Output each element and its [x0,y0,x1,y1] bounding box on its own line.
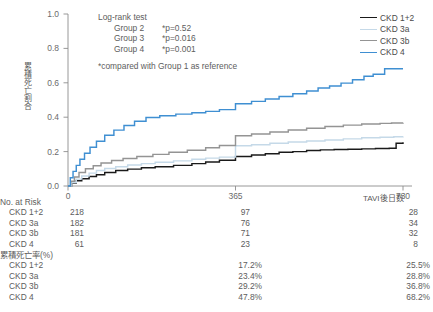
risk-value-day0: 61 [62,239,84,249]
legend-swatch [360,29,377,30]
logrank-row: Group 2 *p=0.52 [98,23,237,34]
table-row: CKD 4 47.8% 68.2% [0,292,433,302]
legend-swatch [360,40,377,41]
logrank-footnote: *compared with Group 1 as reference [98,61,237,72]
risk-row-label: CKD 1+2 [9,207,43,217]
risk-value-day0: 182 [62,218,84,228]
legend-item-ckd3b[interactable]: CKD 3b [360,35,414,47]
risk-value-day730: 34 [396,218,418,228]
no-at-risk-table: No. at Risk CKD 1+2 218 97 28 CKD 3a 182… [0,197,433,249]
logrank-title: Log-rank test [98,12,237,23]
mortality-value-2yr: 68.2% [396,292,430,302]
legend: CKD 1+2 CKD 3a CKD 3b CKD 4 [360,12,414,58]
logrank-row: Group 4 *p=0.001 [98,44,237,55]
y-tick-1: 1.0 [33,9,59,19]
logrank-group-label: Group 3 [98,33,162,44]
mortality-row-label: CKD 3a [9,271,38,281]
logrank-annotation: Log-rank test Group 2 *p=0.52 Group 3 *p… [98,12,237,72]
table-row: CKD 3b 29.2% 36.8% [0,281,433,291]
table-row: CKD 3a 23.4% 28.8% [0,271,433,281]
risk-row-label: CKD 4 [9,239,34,249]
table-row: CKD 3a 182 76 34 [0,218,433,228]
logrank-group-label: Group 4 [98,44,162,55]
risk-value-day365: 71 [228,228,250,238]
mortality-value-1yr: 17.2% [228,260,262,270]
risk-value-day365: 23 [228,239,250,249]
legend-label: CKD 3a [380,24,409,34]
table-row: CKD 1+2 218 97 28 [0,207,433,217]
risk-table-header: No. at Risk [0,197,433,207]
y-axis-label: 累積死亡割合 [19,62,31,110]
risk-value-day365: 97 [228,207,250,217]
mortality-row-label: CKD 3b [9,281,38,291]
cumulative-mortality-table: 累積死亡率(%) CKD 1+2 17.2% 25.5% CKD 3a 23.4… [0,250,433,302]
risk-row-label: CKD 3a [9,218,38,228]
mortality-value-1yr: 47.8% [228,292,262,302]
legend-item-ckd12[interactable]: CKD 1+2 [360,12,414,24]
risk-value-day730: 28 [396,207,418,217]
mortality-row-label: CKD 1+2 [9,260,43,270]
y-tick-08: 0.8 [33,43,59,53]
logrank-row: Group 3 *p=0.016 [98,33,237,44]
legend-label: CKD 3b [380,36,409,46]
legend-item-ckd4[interactable]: CKD 4 [360,47,414,59]
risk-value-day730: 32 [396,228,418,238]
legend-label: CKD 4 [380,47,405,57]
legend-swatch [360,17,377,18]
mortality-row-label: CKD 4 [9,292,34,302]
legend-item-ckd3a[interactable]: CKD 3a [360,24,414,36]
risk-value-day730: 8 [396,239,418,249]
logrank-group-label: Group 2 [98,23,162,34]
table-row: CKD 1+2 17.2% 25.5% [0,260,433,270]
risk-value-day365: 76 [228,218,250,228]
logrank-p-value: *p=0.016 [162,33,196,44]
curve-ckd-4 [68,69,403,186]
mortality-value-2yr: 36.8% [396,281,430,291]
mortality-value-1yr: 29.2% [228,281,262,291]
legend-label: CKD 1+2 [380,13,414,23]
logrank-p-value: *p=0.001 [162,44,196,55]
legend-swatch [360,52,377,53]
risk-value-day0: 181 [62,228,84,238]
y-tick-06: 0.6 [33,78,59,88]
survival-curves [68,69,403,186]
mortality-table-header: 累積死亡率(%) [0,250,433,260]
kaplan-meier-figure: 1.0 0.8 0.6 0.4 0.2 0.0 0 365 730 累積死亡割合… [0,0,433,312]
logrank-p-value: *p=0.52 [162,23,191,34]
mortality-value-2yr: 25.5% [396,260,430,270]
risk-row-label: CKD 3b [9,228,38,238]
y-tick-04: 0.4 [33,112,59,122]
mortality-value-2yr: 28.8% [396,271,430,281]
risk-value-day0: 218 [62,207,84,217]
y-tick-00: 0.0 [33,181,59,191]
table-row: CKD 4 61 23 8 [0,239,433,249]
mortality-value-1yr: 23.4% [228,271,262,281]
table-row: CKD 3b 181 71 32 [0,228,433,238]
y-tick-02: 0.2 [33,147,59,157]
